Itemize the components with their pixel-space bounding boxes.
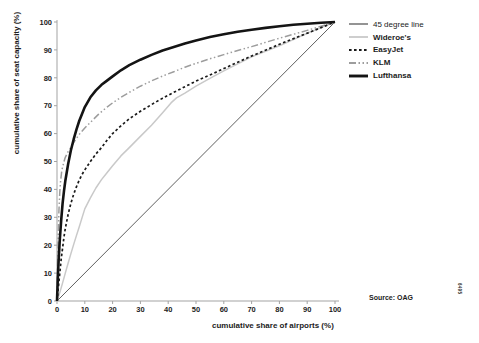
svg-text:70: 70 (247, 305, 255, 314)
svg-text:20: 20 (44, 241, 52, 250)
dashed-line-swatch-icon (349, 46, 368, 54)
legend-item-wideroes: Wideroe's (349, 31, 424, 44)
legend-label: KLM (373, 58, 390, 67)
svg-text:100: 100 (39, 18, 52, 27)
svg-text:40: 40 (164, 305, 172, 314)
svg-text:10: 10 (44, 269, 52, 278)
svg-text:30: 30 (136, 305, 144, 314)
legend: 45 degree line Wideroe's EasyJet KLM Luf… (349, 18, 424, 82)
line-swatch-icon (349, 20, 368, 28)
thick-line-swatch-icon (349, 72, 368, 80)
line-swatch-icon (349, 33, 368, 41)
x-axis-label: cumulative share of airports (%) (212, 321, 334, 330)
legend-label: 45 degree line (373, 20, 424, 29)
legend-item-easyjet: EasyJet (349, 44, 424, 57)
svg-text:60: 60 (220, 305, 228, 314)
svg-text:90: 90 (303, 305, 311, 314)
svg-text:0: 0 (48, 297, 52, 306)
legend-label: Wideroe's (373, 33, 411, 42)
svg-text:80: 80 (275, 305, 283, 314)
svg-text:50: 50 (44, 157, 52, 166)
edge-code-label: 6495 (457, 283, 462, 294)
svg-text:70: 70 (44, 101, 52, 110)
svg-text:10: 10 (81, 305, 89, 314)
legend-item-45-degree-line: 45 degree line (349, 18, 424, 31)
svg-text:100: 100 (329, 305, 342, 314)
svg-text:20: 20 (108, 305, 116, 314)
legend-label: EasyJet (373, 45, 403, 54)
svg-text:90: 90 (44, 46, 52, 55)
svg-text:0: 0 (55, 305, 59, 314)
line-swatch-icon (349, 59, 368, 67)
svg-text:50: 50 (192, 305, 200, 314)
svg-text:30: 30 (44, 213, 52, 222)
legend-item-klm: KLM (349, 56, 424, 69)
svg-text:40: 40 (44, 185, 52, 194)
source-note: Source: OAG (369, 294, 413, 301)
y-axis-label: cumulative share of seat capacity (%) (12, 12, 21, 154)
svg-text:80: 80 (44, 74, 52, 83)
legend-item-lufthansa: Lufthansa (349, 69, 424, 82)
svg-text:60: 60 (44, 129, 52, 138)
legend-label: Lufthansa (373, 71, 411, 80)
